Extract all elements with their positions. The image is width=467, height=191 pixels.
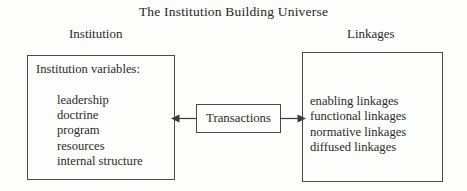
list-item: diffused linkages xyxy=(310,140,406,155)
institution-building-diagram: The Institution Building Universe Instit… xyxy=(0,0,467,191)
list-item: internal structure xyxy=(57,154,143,169)
diagram-title: The Institution Building Universe xyxy=(0,4,467,20)
list-item: resources xyxy=(57,139,143,154)
institution-variables-list: leadership doctrine program resources in… xyxy=(57,93,143,169)
list-item: doctrine xyxy=(57,108,143,123)
list-item: functional linkages xyxy=(310,109,406,124)
linkages-list: enabling linkages functional linkages no… xyxy=(310,94,406,156)
arrow-left-icon xyxy=(171,111,198,126)
list-item: program xyxy=(57,123,143,138)
list-item: leadership xyxy=(57,93,143,108)
column-header-linkages: Linkages xyxy=(347,26,395,42)
column-header-institution: Institution xyxy=(69,26,122,42)
transactions-label: Transactions xyxy=(196,104,281,133)
list-item: normative linkages xyxy=(310,125,406,140)
institution-box-heading: Institution variables: xyxy=(36,62,140,77)
list-item: enabling linkages xyxy=(310,94,406,109)
